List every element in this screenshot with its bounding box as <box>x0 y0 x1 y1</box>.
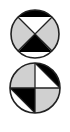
bottom-circle-symbol <box>0 60 70 120</box>
figure-canvas <box>0 0 70 132</box>
top-black-cap <box>0 0 70 17</box>
top-circle-symbol <box>0 0 70 72</box>
